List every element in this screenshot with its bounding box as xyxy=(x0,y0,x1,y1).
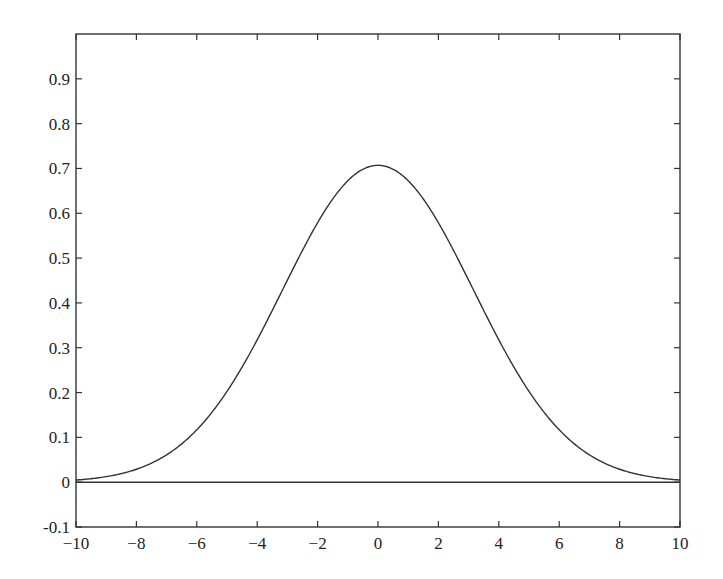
gaussian-curve xyxy=(76,165,680,480)
y-tick-label: 0.4 xyxy=(49,294,71,313)
x-tick-label: 6 xyxy=(555,534,564,553)
y-axis-ticks: -0.100.10.20.30.40.50.60.70.80.9 xyxy=(43,70,680,537)
x-tick-label: 2 xyxy=(434,534,443,553)
x-tick-label: 8 xyxy=(615,534,624,553)
y-tick-label: 0.1 xyxy=(49,428,70,447)
y-tick-label: -0.1 xyxy=(43,518,70,537)
x-tick-label: −6 xyxy=(188,534,206,553)
y-tick-label: 0.7 xyxy=(49,159,71,178)
x-tick-label: −2 xyxy=(309,534,327,553)
y-tick-label: 0.9 xyxy=(49,70,70,89)
plot-frame xyxy=(76,34,680,527)
y-tick-label: 0.3 xyxy=(49,339,70,358)
y-tick-label: 0 xyxy=(62,473,71,492)
x-tick-label: −4 xyxy=(248,534,267,553)
chart-canvas: −10−8−6−4−20246810 -0.100.10.20.30.40.50… xyxy=(0,0,723,579)
y-tick-label: 0.8 xyxy=(49,115,70,134)
x-tick-label: 10 xyxy=(672,534,689,553)
y-tick-label: 0.6 xyxy=(49,204,70,223)
x-tick-label: −8 xyxy=(127,534,145,553)
y-tick-label: 0.5 xyxy=(49,249,70,268)
x-tick-label: 0 xyxy=(374,534,383,553)
x-tick-label: 4 xyxy=(495,534,504,553)
x-axis-ticks: −10−8−6−4−20246810 xyxy=(63,34,689,553)
y-tick-label: 0.2 xyxy=(49,384,70,403)
